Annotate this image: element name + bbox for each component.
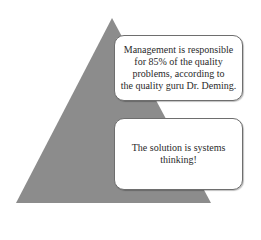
callout-line: thinking! [132, 154, 226, 166]
callout-line: problems, according to [121, 68, 237, 80]
callout-line: Management is responsible [121, 44, 237, 56]
callout-line: the quality guru Dr. Deming. [121, 80, 237, 92]
callout-box-solution: The solution is systems thinking! [114, 118, 243, 190]
callout-box-deming: Management is responsible for 85% of the… [114, 35, 243, 101]
callout-line: for 85% of the quality [121, 56, 237, 68]
callout-line: The solution is systems [132, 142, 226, 154]
